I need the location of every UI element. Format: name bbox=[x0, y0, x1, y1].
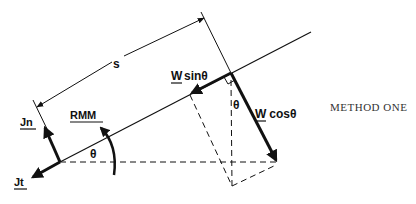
svg-text:Jt: Jt bbox=[14, 176, 24, 188]
svg-text:sinθ: sinθ bbox=[184, 69, 208, 83]
svg-text:W: W bbox=[171, 69, 183, 83]
w-cos-label: W cosθ bbox=[255, 107, 297, 121]
jt-label: Jt bbox=[14, 176, 27, 189]
jn-arrow bbox=[45, 128, 60, 162]
w-sin-label: W sinθ bbox=[171, 69, 208, 83]
jn-label: Jn bbox=[20, 116, 36, 129]
distance-label: s bbox=[113, 57, 120, 71]
incline-line bbox=[60, 32, 311, 162]
construction-lines bbox=[60, 80, 278, 186]
svg-text:Jn: Jn bbox=[20, 116, 33, 128]
dimension-line-right bbox=[124, 18, 204, 56]
theta-corner-label: θ bbox=[233, 98, 240, 112]
theta-origin-label: θ bbox=[90, 147, 97, 161]
method-caption: METHOD ONE bbox=[330, 101, 407, 113]
dimension-line-left bbox=[37, 62, 112, 107]
rmm-label: RMM bbox=[70, 109, 103, 122]
force-diagram: s W sinθ θ W cosθ θ RMM Jn Jt METHOD ONE bbox=[0, 0, 416, 204]
svg-text:RMM: RMM bbox=[70, 109, 96, 121]
jt-arrow bbox=[33, 162, 60, 177]
witness-line-cg bbox=[201, 12, 231, 73]
svg-text:cosθ: cosθ bbox=[266, 107, 297, 121]
